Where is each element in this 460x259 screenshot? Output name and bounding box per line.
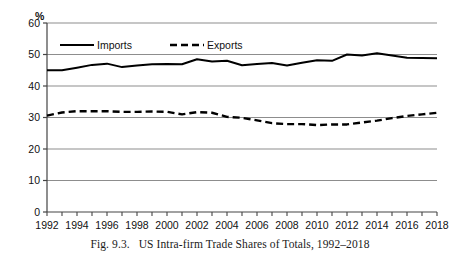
series-line-imports xyxy=(47,53,437,70)
x-tick-label-2008: 2008 xyxy=(275,219,299,231)
y-axis-tick-labels-group: 0102030405060 xyxy=(28,17,47,218)
y-tick-label-20: 20 xyxy=(28,143,40,155)
x-tick-label-1994: 1994 xyxy=(65,219,89,231)
figure-container: 0102030405060 19921994199619982000200220… xyxy=(0,0,460,259)
y-tick-label-50: 50 xyxy=(28,48,40,60)
y-tick-label-30: 30 xyxy=(28,111,40,123)
x-tick-label-2014: 2014 xyxy=(365,219,389,231)
x-tick-label-2000: 2000 xyxy=(155,219,179,231)
y-axis-unit-label: % xyxy=(35,10,45,22)
x-tick-label-2004: 2004 xyxy=(215,219,239,231)
x-tick-label-2016: 2016 xyxy=(395,219,419,231)
figure-caption-number: Fig. 9.3. xyxy=(90,238,129,250)
x-tick-label-1996: 1996 xyxy=(95,219,119,231)
x-tick-label-2006: 2006 xyxy=(245,219,269,231)
y-tick-label-0: 0 xyxy=(34,206,40,218)
figure-caption: Fig. 9.3.US Intra-firm Trade Shares of T… xyxy=(0,238,460,250)
data-series-group xyxy=(47,53,437,125)
y-tick-label-10: 10 xyxy=(28,174,40,186)
x-tick-label-2010: 2010 xyxy=(305,219,329,231)
figure-caption-title: US Intra-firm Trade Shares of Totals, 19… xyxy=(139,238,370,250)
legend-label-imports: Imports xyxy=(97,39,132,51)
y-tick-label-40: 40 xyxy=(28,80,40,92)
gridlines-group xyxy=(47,23,437,212)
series-line-exports xyxy=(47,111,437,125)
x-axis-tick-labels-group: 1992199419961998200020022004200620082010… xyxy=(35,219,449,231)
legend-label-exports: Exports xyxy=(207,39,243,51)
x-tick-label-1992: 1992 xyxy=(35,219,59,231)
intra-firm-trade-shares-line-chart: 0102030405060 19921994199619982000200220… xyxy=(0,0,460,259)
x-tick-label-1998: 1998 xyxy=(125,219,149,231)
x-tick-label-2012: 2012 xyxy=(335,219,359,231)
x-tick-label-2018: 2018 xyxy=(425,219,449,231)
x-axis-ticks-group xyxy=(47,212,437,216)
x-tick-label-2002: 2002 xyxy=(185,219,209,231)
chart-legend: ImportsExports xyxy=(60,39,243,51)
